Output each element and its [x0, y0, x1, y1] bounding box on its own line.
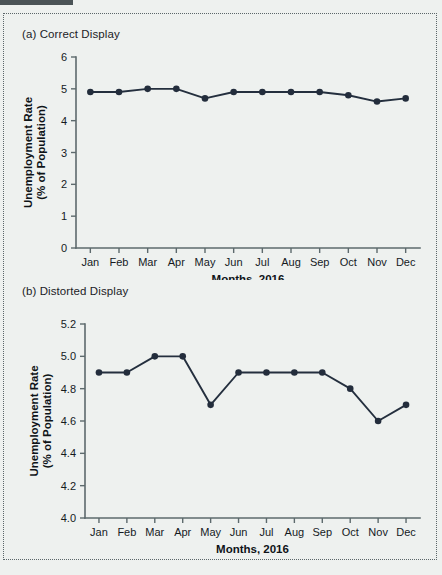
series-line — [99, 356, 406, 421]
data-point — [230, 89, 237, 96]
x-axis-title: Months, 2016 — [216, 543, 289, 555]
y-tick-label: 0 — [61, 242, 67, 254]
x-axis-title: Months, 2016 — [212, 273, 285, 280]
chart-a-plot: 0123456JanFebMarAprMayJunJulAugSepOctNov… — [0, 18, 442, 280]
figure-root: (a) Correct Display 0123456JanFebMarAprM… — [0, 0, 442, 575]
y-tick-label: 5.2 — [61, 318, 76, 330]
x-tick-label: Sep — [310, 256, 330, 268]
x-tick-label: Oct — [340, 256, 357, 268]
x-tick-label: Nov — [368, 526, 388, 538]
x-tick-label: Jul — [259, 526, 273, 538]
data-point — [291, 369, 298, 376]
chart-panel-b: (b) Distorted Display 4.04.24.44.64.85.0… — [0, 280, 442, 570]
y-tick-label: 4.4 — [61, 447, 76, 459]
y-tick-label: 1 — [61, 210, 67, 222]
data-point — [173, 86, 180, 93]
y-tick-label: 3 — [61, 147, 67, 159]
x-tick-label: Jun — [230, 526, 248, 538]
data-point — [375, 418, 382, 425]
y-tick-label: 5.0 — [61, 350, 76, 362]
x-tick-label: Jan — [81, 256, 99, 268]
y-tick-label: 2 — [61, 178, 67, 190]
data-point — [235, 369, 242, 376]
x-tick-label: Jul — [255, 256, 269, 268]
top-rule-bar — [0, 0, 73, 5]
series-line — [90, 89, 405, 102]
data-point — [374, 98, 381, 105]
data-point — [116, 89, 123, 96]
x-tick-label: Apr — [168, 256, 185, 268]
data-point — [202, 95, 209, 102]
x-tick-label: Aug — [281, 256, 301, 268]
data-point — [316, 89, 323, 96]
x-tick-label: Dec — [396, 256, 416, 268]
y-tick-label: 4.6 — [61, 415, 76, 427]
x-tick-label: Nov — [367, 256, 387, 268]
y-axis-title-line1: Unemployment Rate — [22, 97, 34, 208]
data-point — [87, 89, 94, 96]
x-tick-label: Jun — [225, 256, 243, 268]
chart-b-plot: 4.04.24.44.64.85.05.2JanFebMarAprMayJunJ… — [0, 280, 442, 570]
data-point — [179, 353, 186, 360]
data-point — [403, 402, 410, 409]
data-point — [259, 89, 266, 96]
data-point — [402, 95, 409, 102]
y-tick-label: 6 — [61, 51, 67, 63]
x-tick-label: Sep — [313, 526, 333, 538]
x-tick-label: Mar — [145, 526, 164, 538]
y-axis-title-line1: Unemployment Rate — [28, 365, 40, 476]
data-point — [96, 369, 103, 376]
data-point — [151, 353, 158, 360]
x-tick-label: Aug — [285, 526, 305, 538]
x-tick-label: Feb — [117, 526, 136, 538]
data-point — [347, 385, 354, 392]
data-point — [124, 369, 131, 376]
data-point — [319, 369, 326, 376]
chart-panel-a: (a) Correct Display 0123456JanFebMarAprM… — [0, 18, 442, 280]
y-axis-title-line2: (% of Population) — [35, 105, 47, 200]
data-point — [345, 92, 352, 99]
data-point — [263, 369, 270, 376]
y-tick-label: 4.8 — [61, 383, 76, 395]
x-tick-label: Apr — [174, 526, 191, 538]
y-tick-label: 4.2 — [61, 480, 76, 492]
y-axis-title-line2: (% of Population) — [41, 374, 53, 469]
y-tick-label: 4 — [61, 115, 67, 127]
x-tick-label: Oct — [342, 526, 359, 538]
data-point — [207, 402, 214, 409]
data-point — [144, 86, 151, 93]
x-tick-label: May — [195, 256, 216, 268]
x-tick-label: Feb — [110, 256, 129, 268]
x-tick-label: Dec — [396, 526, 416, 538]
y-tick-label: 5 — [61, 83, 67, 95]
y-tick-label: 4.0 — [61, 512, 76, 524]
data-point — [288, 89, 295, 96]
x-tick-label: Jan — [90, 526, 108, 538]
x-tick-label: May — [200, 526, 221, 538]
x-tick-label: Mar — [138, 256, 157, 268]
